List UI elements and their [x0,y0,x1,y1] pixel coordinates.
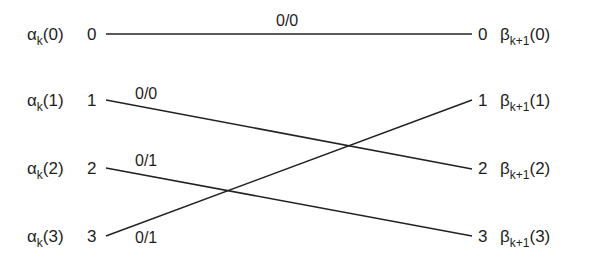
svg-text:βk+1(0): βk+1(0) [500,25,550,48]
edge-2-to-3 [106,168,472,236]
edge-label-0-0: 0/0 [276,12,298,29]
left-node-1: αk(1) 1 [27,91,96,114]
right-node-2: 2 βk+1(2) [478,159,550,182]
left-state-1: 1 [87,91,96,110]
right-node-3: 3 βk+1(3) [478,227,550,250]
edge-1-to-2 [106,100,472,169]
left-node-2: αk(2) 2 [27,159,96,182]
right-node-0: 0 βk+1(0) [478,25,550,48]
right-node-1: 1 βk+1(1) [478,91,550,114]
edge-label-1-2: 0/0 [135,85,157,102]
svg-text:βk+1(3): βk+1(3) [500,227,550,250]
svg-text:αk(1): αk(1) [27,91,64,114]
left-node-0: αk(0) 0 [27,25,96,48]
edge-label-2-3: 0/1 [135,152,157,169]
svg-text:βk+1(2): βk+1(2) [500,159,550,182]
left-node-3: αk(3) 3 [27,227,96,250]
svg-text:αk(2): αk(2) [27,159,64,182]
right-state-2: 2 [478,159,487,178]
left-state-3: 3 [87,227,96,246]
left-state-0: 0 [87,25,96,44]
edge-label-3-1: 0/1 [135,229,157,246]
svg-text:αk(0): αk(0) [27,25,64,48]
trellis-diagram: 0/0 0/0 0/1 0/1 αk(0) 0 αk(1) 1 αk(2) 2 … [0,0,596,268]
edge-3-to-1 [106,100,472,236]
right-state-1: 1 [478,91,487,110]
right-state-0: 0 [478,25,487,44]
svg-text:βk+1(1): βk+1(1) [500,91,550,114]
svg-text:αk(3): αk(3) [27,227,64,250]
left-state-2: 2 [87,159,96,178]
right-state-3: 3 [478,227,487,246]
